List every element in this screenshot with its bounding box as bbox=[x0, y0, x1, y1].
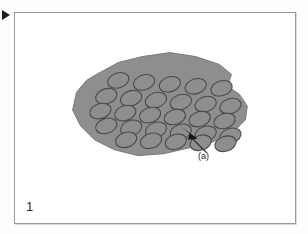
figure-frame: 1 (a) bbox=[14, 12, 296, 224]
right-pointing-triangle-icon bbox=[2, 10, 10, 20]
callout-label-a: (a) bbox=[198, 152, 209, 161]
figure-number: 1 bbox=[26, 200, 33, 213]
figure-illustration bbox=[15, 13, 295, 223]
scanned-page: 1 (a) bbox=[0, 0, 308, 234]
